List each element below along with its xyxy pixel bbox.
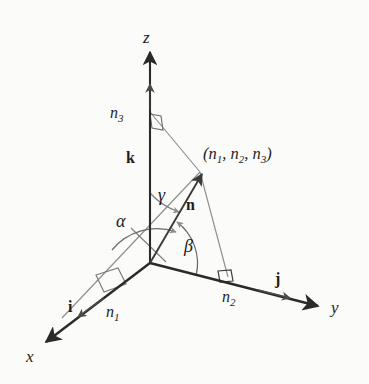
j-unit-vector-label: j <box>275 271 280 287</box>
y-axis-label: y <box>331 299 339 316</box>
component-n1-subscript: 1 <box>114 311 120 323</box>
angle-alpha-label: α <box>116 212 125 230</box>
component-n3-subscript: 3 <box>118 112 124 124</box>
j-unit-vector-arrow <box>258 290 290 298</box>
component-n2-base: n <box>222 288 230 305</box>
vector-n-label: n <box>186 197 195 213</box>
figure-container: z y x k j i n n3 n2 n1 (n1, n2, n3) γ β … <box>0 0 369 384</box>
component-n1-label: n1 <box>106 304 120 323</box>
right-angle-mark-x <box>96 268 126 292</box>
projection-line-to-z <box>150 112 200 172</box>
i-unit-vector-label: i <box>68 299 72 315</box>
z-axis-label: z <box>143 29 150 46</box>
i-unit-vector-arrow <box>78 298 104 317</box>
right-angle-mark-z <box>150 114 163 130</box>
point-coordinates-label: (n1, n2, n3) <box>203 146 272 165</box>
angle-beta-label: β <box>184 237 193 255</box>
point-separator-2: , <box>244 144 252 163</box>
projection-line-to-y <box>200 172 228 277</box>
component-n3-base: n <box>110 104 118 121</box>
point-separator-1: , <box>222 144 230 163</box>
component-n2-subscript: 2 <box>230 296 236 308</box>
point-n3-base: n <box>253 144 261 163</box>
component-n3-label: n3 <box>110 105 124 124</box>
component-n2-label: n2 <box>222 289 236 308</box>
projection-line-to-x <box>62 172 200 318</box>
point-n2-base: n <box>231 144 239 163</box>
x-axis-label: x <box>26 348 34 365</box>
point-close-paren: ) <box>266 144 272 163</box>
k-unit-vector-label: k <box>126 150 135 166</box>
component-n1-base: n <box>106 303 114 320</box>
direction-angles-diagram <box>0 0 369 384</box>
point-n1-base: n <box>209 144 217 163</box>
angle-gamma-label: γ <box>158 186 165 204</box>
